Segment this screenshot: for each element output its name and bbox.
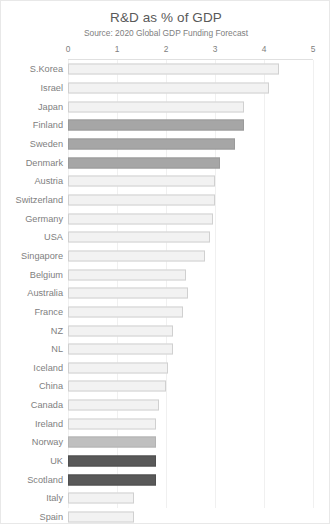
bar-row: Japan [1,97,330,116]
bar-row: Italy [1,489,330,508]
bar-row: Denmark [1,153,330,172]
category-label: Ireland [0,419,63,429]
category-label: Belgium [0,270,63,280]
chart-title-block: R&D as % of GDP Source: 2020 Global GDP … [1,9,330,40]
x-axis-tick-2: 2 [164,44,169,54]
bar[interactable] [68,232,210,243]
category-label: Finland [0,120,63,130]
category-label: UK [0,456,63,466]
bar-row: Germany [1,209,330,228]
bar-rows: S.KoreaIsraelJapanFinlandSwedenDenmarkAu… [1,60,330,508]
category-label: Australia [0,288,63,298]
chart-title: R&D as % of GDP [1,9,330,26]
bar-row: Norway [1,433,330,452]
bar-row: UK [1,452,330,471]
bar[interactable] [68,64,279,75]
category-label: Japan [0,102,63,112]
chart-subtitle: Source: 2020 Global GDP Funding Forecast [1,27,330,40]
bar[interactable] [68,288,188,299]
category-label: Norway [0,437,63,447]
category-label: Denmark [0,158,63,168]
bar-row: Spain [1,508,330,524]
bar-row: Iceland [1,359,330,378]
category-label: Sweden [0,139,63,149]
bar-row: France [1,303,330,322]
bar-row: NL [1,340,330,359]
bar[interactable] [68,213,213,224]
bar[interactable] [68,250,205,261]
category-label: Austria [0,176,63,186]
bar[interactable] [68,194,215,205]
category-label: NZ [0,326,63,336]
bar[interactable] [68,101,244,112]
bar[interactable] [68,82,269,93]
x-axis-tick-4: 4 [262,44,267,54]
bar[interactable] [68,362,168,373]
bar-row: Australia [1,284,330,303]
category-label: France [0,307,63,317]
x-axis-tick-0: 0 [66,44,71,54]
bar-row: Singapore [1,247,330,266]
bar-row: Switzerland [1,191,330,210]
bar-row: Belgium [1,265,330,284]
bar-row: China [1,377,330,396]
category-label: Israel [0,83,63,93]
bar[interactable] [68,176,215,187]
bar[interactable] [68,306,183,317]
x-axis-tick-1: 1 [115,44,120,54]
bar[interactable] [68,400,159,411]
category-label: USA [0,232,63,242]
bar[interactable] [68,138,235,149]
bar-row: Finland [1,116,330,135]
bar[interactable] [68,120,244,131]
bar[interactable] [68,512,134,523]
category-label: Singapore [0,251,63,261]
bar-row: USA [1,228,330,247]
bar-row: Scotland [1,470,330,489]
bar[interactable] [68,344,173,355]
category-label: Switzerland [0,195,63,205]
chart-container: R&D as % of GDP Source: 2020 Global GDP … [0,0,330,524]
category-label: Spain [0,512,63,522]
bar[interactable] [68,493,134,504]
bar-row: Austria [1,172,330,191]
bar[interactable] [68,437,156,448]
bar[interactable] [68,157,220,168]
bar[interactable] [68,325,173,336]
category-label: Italy [0,493,63,503]
bar-row: Ireland [1,414,330,433]
category-label: NL [0,344,63,354]
bar-row: Sweden [1,135,330,154]
bar-row: S.Korea [1,60,330,79]
x-axis-tick-labels: 012345 [1,44,330,58]
x-axis-tick-3: 3 [213,44,218,54]
category-label: Scotland [0,475,63,485]
bar[interactable] [68,381,166,392]
category-label: Iceland [0,363,63,373]
bar[interactable] [68,418,156,429]
category-label: Germany [0,214,63,224]
x-axis-tick-5: 5 [311,44,316,54]
category-label: Canada [0,400,63,410]
bar[interactable] [68,269,186,280]
category-label: China [0,381,63,391]
bar-row: NZ [1,321,330,340]
plot-area: S.KoreaIsraelJapanFinlandSwedenDenmarkAu… [1,60,330,508]
bar[interactable] [68,456,156,467]
bar-row: Israel [1,79,330,98]
bar-row: Canada [1,396,330,415]
bar[interactable] [68,474,156,485]
category-label: S.Korea [0,64,63,74]
